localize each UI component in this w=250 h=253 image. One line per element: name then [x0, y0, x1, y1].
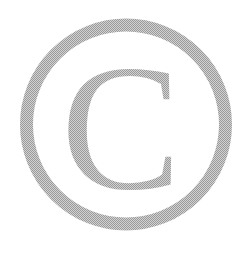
- copyright-symbol: C: [0, 0, 250, 253]
- copyright-letter: C: [61, 28, 181, 227]
